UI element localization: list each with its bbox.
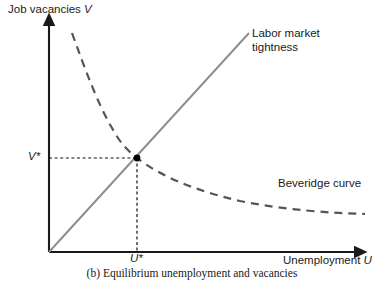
figure-caption: (b) Equilibrium unemployment and vacanci… bbox=[0, 267, 384, 279]
y-axis-symbol: V bbox=[84, 3, 92, 15]
beveridge-curve-figure: Job vacancies V Unemployment U Labor mar… bbox=[0, 0, 384, 286]
v-star-tick-label: V* bbox=[28, 150, 40, 164]
beveridge-curve-label: Beveridge curve bbox=[278, 177, 361, 191]
x-axis-label: Unemployment U bbox=[283, 254, 372, 268]
tightness-label-line1: Labor market bbox=[252, 27, 320, 39]
plot-area bbox=[0, 0, 384, 286]
y-axis-label: Job vacancies V bbox=[8, 3, 92, 17]
y-axis-label-text: Job vacancies bbox=[8, 3, 81, 15]
labor-market-tightness-line bbox=[49, 33, 249, 252]
u-star-tick-label: U* bbox=[130, 252, 143, 266]
x-axis-label-text: Unemployment bbox=[283, 254, 360, 266]
labor-market-tightness-label: Labor markettightness bbox=[252, 27, 320, 54]
equilibrium-point-marker bbox=[134, 155, 141, 162]
x-axis-symbol: U bbox=[364, 254, 372, 266]
tightness-label-line2: tightness bbox=[252, 41, 298, 53]
